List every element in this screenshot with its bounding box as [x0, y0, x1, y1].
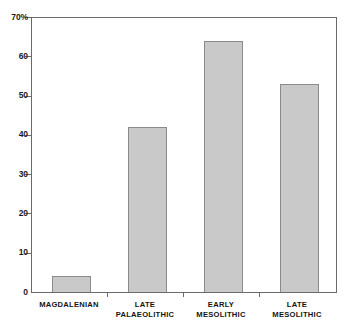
y-axis-label-30: 30: [19, 170, 28, 179]
y-axis-label-50: 50: [19, 91, 28, 100]
y-axis-label-20: 20: [19, 209, 28, 218]
category-label-magdalenian: MAGDALENIAN: [31, 300, 107, 310]
y-axis-label-60: 60: [19, 52, 28, 61]
x-axis-baseline: [31, 292, 337, 293]
bar-magdalenian: [52, 276, 91, 292]
bar-chart-figure: 70% 60 50 40 30 20 10 0 MAGDALENIAN LATE…: [0, 0, 349, 333]
category-label-late-mesolithic: LATE MESOLITHIC: [259, 300, 335, 319]
x-tick-3: [259, 292, 260, 297]
bar-late-mesolithic: [280, 84, 319, 292]
bar-late-palaeolithic: [128, 127, 167, 292]
y-axis-label-10: 10: [19, 248, 28, 257]
y-axis-label-70: 70%: [11, 13, 28, 22]
bar-early-mesolithic: [204, 41, 243, 292]
x-tick-2: [183, 292, 184, 297]
x-tick-1: [107, 292, 108, 297]
category-label-late-palaeolithic: LATE PALAEOLITHIC: [107, 300, 183, 319]
y-axis-label-0: 0: [23, 288, 28, 297]
plot-area: [31, 17, 337, 292]
y-axis-label-40: 40: [19, 130, 28, 139]
category-label-early-mesolithic: EARLY MESOLITHIC: [183, 300, 259, 319]
